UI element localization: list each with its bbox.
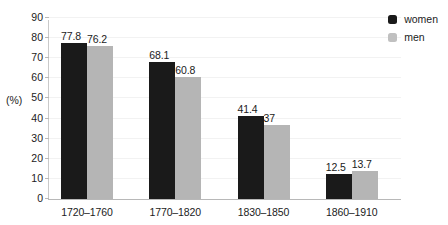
- y-tick-mark-70: [45, 57, 49, 58]
- y-tick-label-90: 90: [31, 11, 43, 23]
- bar-rect-men: [175, 77, 201, 199]
- bar-women: 68.1: [149, 62, 175, 199]
- x-axis-line: [48, 199, 401, 200]
- bar-rect-women: [326, 174, 352, 199]
- bar-women: 77.8: [61, 43, 87, 199]
- bar-men: 76.2: [87, 46, 113, 199]
- bar-rect-women: [149, 62, 175, 199]
- y-tick-mark-80: [45, 37, 49, 38]
- y-tick-mark-40: [45, 118, 49, 119]
- legend-item-men: men: [388, 31, 438, 43]
- y-tick-label-50: 50: [31, 91, 43, 103]
- y-tick-label-80: 80: [31, 31, 43, 43]
- x-axis-category-label: 1770–1820: [149, 206, 201, 218]
- y-tick-mark-10: [45, 178, 49, 179]
- legend-label-men: men: [404, 31, 424, 43]
- bar-rect-men: [264, 125, 290, 199]
- bar-men: 13.7: [352, 171, 378, 199]
- y-tick-label-40: 40: [31, 112, 43, 124]
- bar-rect-women: [238, 116, 264, 199]
- bar-value-label: 41.4: [238, 103, 258, 115]
- grouped-bar-chart: (%) 0102030405060708090 77.876.21720–176…: [0, 0, 448, 225]
- y-tick-mark-60: [45, 77, 49, 78]
- bar-group: 77.876.21720–1760: [61, 43, 113, 199]
- x-axis-category-label: 1830–1850: [238, 206, 290, 218]
- y-tick-mark-30: [45, 138, 49, 139]
- bar-value-label: 13.7: [352, 158, 372, 170]
- y-tick-label-70: 70: [31, 51, 43, 63]
- x-axis-category-label: 1860–1910: [326, 206, 378, 218]
- bar-men: 60.8: [175, 77, 201, 199]
- bar-value-label: 37: [264, 112, 275, 124]
- y-axis-unit-label: (%): [6, 94, 22, 106]
- bar-men: 37: [264, 125, 290, 199]
- y-tick-label-30: 30: [31, 132, 43, 144]
- y-axis-line: [48, 20, 49, 200]
- women-swatch-icon: [388, 15, 397, 24]
- plot-area: 0102030405060708090 77.876.21720–176068.…: [48, 18, 401, 200]
- y-tick-mark-90: [45, 17, 49, 18]
- bar-women: 41.4: [238, 116, 264, 199]
- bar-group: 68.160.81770–1820: [149, 62, 201, 199]
- bar-rect-men: [352, 171, 378, 199]
- bar-group: 12.513.71860–1910: [326, 171, 378, 199]
- y-tick-label-10: 10: [31, 172, 43, 184]
- y-tick-label-20: 20: [31, 152, 43, 164]
- y-tick-label-60: 60: [31, 71, 43, 83]
- y-tick-mark-0: [45, 198, 49, 199]
- legend-label-women: women: [404, 13, 438, 25]
- bar-value-label: 12.5: [326, 161, 346, 173]
- y-tick-label-0: 0: [37, 192, 43, 204]
- bar-rect-men: [87, 46, 113, 199]
- bar-value-label: 60.8: [175, 64, 195, 76]
- bar-women: 12.5: [326, 174, 352, 199]
- men-swatch-icon: [388, 33, 397, 42]
- bar-value-label: 68.1: [149, 49, 169, 61]
- y-tick-mark-20: [45, 158, 49, 159]
- gridline-90: 90: [49, 17, 401, 18]
- bar-group: 41.4371830–1850: [238, 116, 290, 199]
- x-axis-category-label: 1720–1760: [61, 206, 113, 218]
- legend-item-women: women: [388, 13, 438, 25]
- bar-value-label: 77.8: [61, 30, 81, 42]
- chart-legend: women men: [388, 13, 438, 43]
- y-tick-mark-50: [45, 97, 49, 98]
- bar-rect-women: [61, 43, 87, 199]
- bar-value-label: 76.2: [87, 33, 107, 45]
